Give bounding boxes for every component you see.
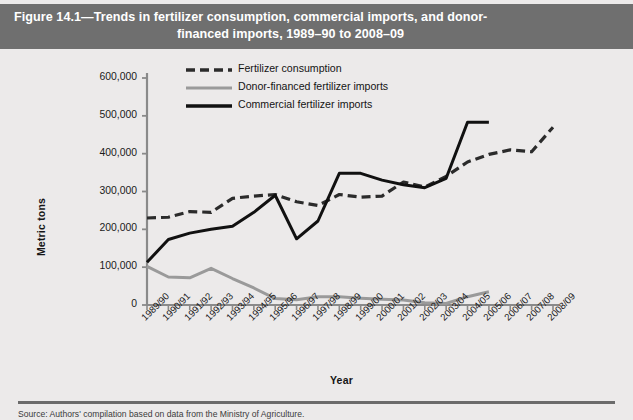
y-tick-label: 100,000: [75, 260, 137, 271]
footer-divider: [18, 401, 615, 404]
series-group: [147, 122, 553, 303]
chart-panel: Metric tons Year 0100,000200,000300,0004…: [0, 49, 633, 395]
figure-title-bar: Figure 14.1—Trends in fertilizer consump…: [0, 4, 633, 49]
figure-title: Figure 14.1—Trends in fertilizer consump…: [14, 9, 593, 43]
figure-title-line-2: financed imports, 1989–90 to 2008–09: [14, 26, 593, 43]
y-tick-label: 200,000: [75, 222, 137, 233]
legend-label: Commercial fertilizer imports: [238, 98, 372, 110]
source-note: Source: Authors' compilation based on da…: [18, 409, 618, 419]
figure-title-line-1: Figure 14.1—Trends in fertilizer consump…: [14, 10, 487, 24]
figure-page: Figure 14.1—Trends in fertilizer consump…: [0, 0, 633, 420]
series-line-3: [147, 122, 489, 262]
y-tick-label: 600,000: [75, 71, 137, 82]
legend-label: Fertilizer consumption: [238, 62, 342, 74]
y-tick-label: 0: [75, 298, 137, 309]
y-tick-label: 500,000: [75, 109, 137, 120]
legend-markers-group: [186, 70, 232, 106]
legend-label: Donor-financed fertilizer imports: [238, 80, 388, 92]
y-tick-label: 300,000: [75, 185, 137, 196]
y-tick-label: 400,000: [75, 147, 137, 158]
